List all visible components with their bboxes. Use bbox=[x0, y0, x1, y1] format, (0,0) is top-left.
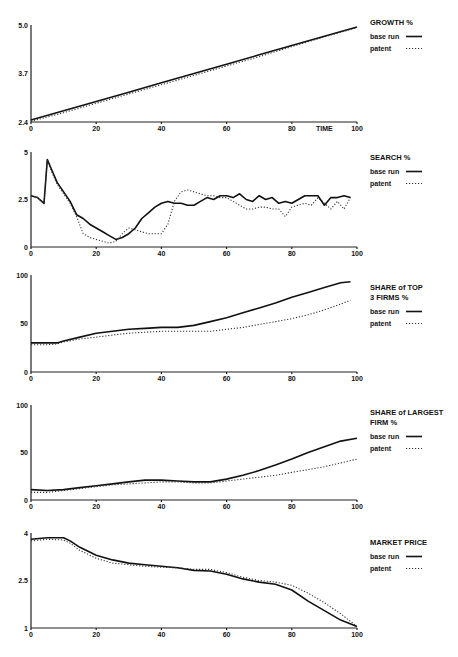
series-base-run bbox=[31, 282, 351, 343]
legend-label: base run bbox=[370, 168, 399, 175]
y-tick-label: 2.5 bbox=[18, 196, 28, 203]
series-patent bbox=[31, 539, 357, 626]
y-tick-label: 5 bbox=[24, 149, 28, 156]
chart-panel-2: 52.50020406080100SEARCH %base runpatent bbox=[18, 149, 422, 258]
chart-canvas: 5.03.72.4020406080TIME100GROWTH %base ru… bbox=[0, 0, 458, 657]
series-base-run bbox=[31, 27, 357, 120]
y-tick-label: 0 bbox=[24, 497, 28, 504]
chart-title: SHARE of TOP bbox=[370, 283, 423, 292]
legend-label: patent bbox=[370, 45, 392, 53]
y-tick-label: 50 bbox=[20, 320, 28, 327]
x-tick-label: 60 bbox=[223, 503, 231, 510]
x-tick-label: 40 bbox=[158, 631, 166, 638]
y-tick-label: 5.0 bbox=[18, 22, 28, 29]
x-tick-label: 60 bbox=[223, 125, 231, 132]
x-tick-label: 40 bbox=[158, 375, 166, 382]
series-patent bbox=[31, 160, 351, 244]
series-base-run bbox=[31, 538, 357, 627]
axes bbox=[31, 152, 357, 247]
legend-label: patent bbox=[370, 445, 392, 453]
legend-label: base run bbox=[370, 433, 399, 440]
x-axis-label: TIME bbox=[316, 125, 333, 132]
x-tick-label: 100 bbox=[351, 375, 363, 382]
chart-title: GROWTH % bbox=[370, 18, 413, 27]
legend-label: patent bbox=[370, 565, 392, 573]
y-tick-label: 0 bbox=[24, 369, 28, 376]
y-tick-label: 50 bbox=[20, 449, 28, 456]
x-tick-label: 80 bbox=[288, 503, 296, 510]
x-tick-label: 0 bbox=[29, 125, 33, 132]
x-tick-label: 60 bbox=[223, 631, 231, 638]
x-tick-label: 0 bbox=[29, 250, 33, 257]
legend-label: patent bbox=[370, 320, 392, 328]
chart-title: SHARE of LARGEST bbox=[370, 408, 444, 417]
x-tick-label: 100 bbox=[351, 503, 363, 510]
series-base-run bbox=[31, 438, 357, 490]
y-tick-label: 100 bbox=[16, 272, 28, 279]
chart-title: SEARCH % bbox=[370, 153, 411, 162]
x-tick-label: 80 bbox=[288, 631, 296, 638]
y-tick-label: 100 bbox=[16, 402, 28, 409]
legend-label: base run bbox=[370, 553, 399, 560]
chart-panel-4: 100500020406080100SHARE of LARGESTFIRM %… bbox=[16, 402, 443, 511]
x-tick-label: 20 bbox=[92, 375, 100, 382]
x-tick-label: 100 bbox=[351, 125, 363, 132]
y-tick-label: 2.5 bbox=[18, 577, 28, 584]
y-tick-label: 1 bbox=[24, 625, 28, 632]
x-tick-label: 20 bbox=[92, 631, 100, 638]
x-tick-label: 20 bbox=[92, 250, 100, 257]
x-tick-label: 20 bbox=[92, 125, 100, 132]
chart-title: MARKET PRICE bbox=[370, 538, 427, 547]
legend-label: patent bbox=[370, 180, 392, 188]
x-tick-label: 60 bbox=[223, 375, 231, 382]
y-tick-label: 3.7 bbox=[18, 70, 28, 77]
chart-title: FIRM % bbox=[370, 418, 397, 427]
x-tick-label: 40 bbox=[158, 250, 166, 257]
x-tick-label: 0 bbox=[29, 503, 33, 510]
chart-panel-5: 42.51020406080100MARKET PRICEbase runpat… bbox=[18, 530, 427, 639]
x-tick-label: 0 bbox=[29, 375, 33, 382]
x-tick-label: 100 bbox=[351, 631, 363, 638]
x-tick-label: 100 bbox=[351, 250, 363, 257]
series-patent bbox=[31, 28, 357, 122]
x-tick-label: 40 bbox=[158, 503, 166, 510]
legend-label: base run bbox=[370, 308, 399, 315]
legend-label: base run bbox=[370, 33, 399, 40]
x-tick-label: 0 bbox=[29, 631, 33, 638]
chart-panel-1: 5.03.72.4020406080TIME100GROWTH %base ru… bbox=[18, 18, 422, 132]
chart-title: 3 FIRMS % bbox=[370, 293, 409, 302]
y-tick-label: 4 bbox=[24, 530, 28, 537]
x-tick-label: 20 bbox=[92, 503, 100, 510]
x-tick-label: 40 bbox=[158, 125, 166, 132]
y-tick-label: 0 bbox=[24, 244, 28, 251]
y-tick-label: 2.4 bbox=[18, 119, 28, 126]
series-base-run bbox=[31, 160, 351, 240]
x-tick-label: 80 bbox=[288, 125, 296, 132]
x-tick-label: 60 bbox=[223, 250, 231, 257]
axes bbox=[31, 275, 357, 372]
x-tick-label: 80 bbox=[288, 250, 296, 257]
x-tick-label: 80 bbox=[288, 375, 296, 382]
chart-panel-3: 100500020406080100SHARE of TOP3 FIRMS %b… bbox=[16, 272, 422, 383]
